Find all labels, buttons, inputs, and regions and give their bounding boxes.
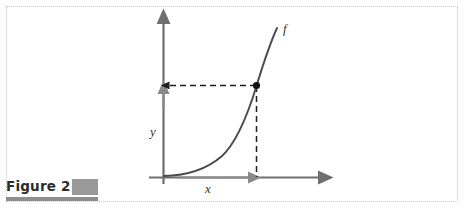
x-axis-label: x xyxy=(204,181,211,196)
figure-caption-block: Figure 2.3 xyxy=(0,178,128,208)
curve-label-f: f xyxy=(283,21,289,36)
figure-caption-swatch xyxy=(72,179,98,195)
figure-caption-rule xyxy=(6,197,98,201)
figure-page: f y x Figure 2.3 xyxy=(0,0,466,211)
marked-point xyxy=(253,82,260,89)
function-curve-f xyxy=(164,28,277,176)
y-axis-label: y xyxy=(148,124,156,139)
